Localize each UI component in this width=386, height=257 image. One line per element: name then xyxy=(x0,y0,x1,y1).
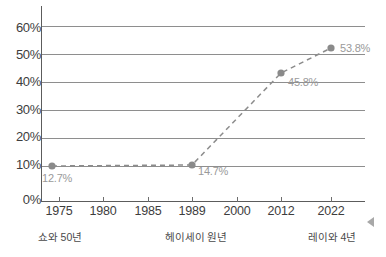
x-axis-tick xyxy=(192,197,193,202)
x-axis-tick xyxy=(237,197,238,202)
x-axis-tick-label: 1980 xyxy=(89,204,116,218)
data-point-label: 12.7% xyxy=(42,172,72,184)
x-axis-tick xyxy=(103,197,104,202)
data-point-label: 45.8% xyxy=(288,76,318,88)
x-axis-line xyxy=(41,201,365,202)
x-axis-tick-label: 1985 xyxy=(134,204,161,218)
gridline-50 xyxy=(41,54,365,55)
x-axis-era-sublabel: 쇼와 50년 xyxy=(38,229,83,244)
y-axis-tick-label: 20% xyxy=(1,129,41,144)
x-axis-era-sublabel: 레이와 4년 xyxy=(308,229,357,244)
x-axis-tick-label: 1989 xyxy=(178,204,205,218)
x-axis-tick-label: 2012 xyxy=(267,204,294,218)
y-axis-tick-label: 60% xyxy=(1,20,41,35)
y-axis-tick-label: 30% xyxy=(1,102,41,117)
x-axis-tick xyxy=(281,197,282,202)
y-axis-tick-label: 0% xyxy=(1,192,41,207)
gridline-20 xyxy=(41,138,365,139)
chart-container: 60% 50% 40% 30% 20% 10% 0% 1975 1980 198… xyxy=(0,0,386,257)
x-axis-tick xyxy=(331,197,332,202)
gridline-30 xyxy=(41,110,365,111)
left-triangle-icon xyxy=(367,217,374,227)
x-axis-tick xyxy=(148,197,149,202)
x-axis-tick-label: 2022 xyxy=(317,204,344,218)
gridline-60 xyxy=(41,26,365,27)
x-axis-tick-label: 1975 xyxy=(45,204,72,218)
data-point-label: 53.8% xyxy=(340,42,370,54)
y-axis-tick-label: 50% xyxy=(1,47,41,62)
x-axis-tick-label: 2000 xyxy=(223,204,250,218)
y-axis-tick-label: 40% xyxy=(1,74,41,89)
x-axis-tick xyxy=(59,197,60,202)
data-point-label: 14.7% xyxy=(198,165,228,177)
x-axis-era-sublabel: 헤이세이 원년 xyxy=(165,229,228,244)
y-axis-tick-label: 10% xyxy=(1,157,41,172)
